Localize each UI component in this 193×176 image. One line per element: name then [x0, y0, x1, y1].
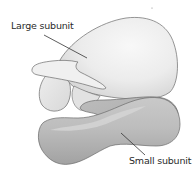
- large-subunit-label: Large subunit: [11, 20, 74, 31]
- speck: [151, 7, 152, 8]
- small-subunit-label: Small subunit: [129, 155, 191, 166]
- large-subunit-body: [60, 17, 177, 99]
- ribosome-diagram: Large subunit Small subunit: [0, 0, 193, 176]
